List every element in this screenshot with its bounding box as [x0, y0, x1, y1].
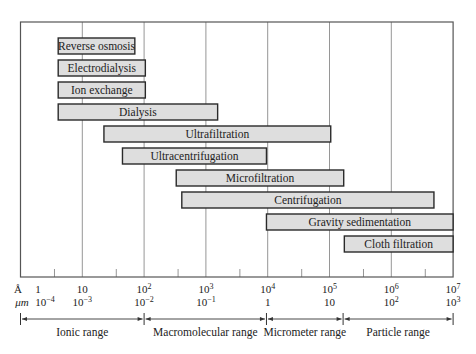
range-macromolecular-range: Macromolecular range: [146, 317, 265, 339]
range-micrometer-range: Micrometer range: [263, 317, 346, 339]
bar-label: Microfiltration: [226, 172, 295, 184]
bar-ultrafiltration: Ultrafiltration: [104, 126, 331, 142]
separation-processes-chart: Reverse osmosisElectrodialysisIon exchan…: [0, 0, 476, 354]
bar-reverse-osmosis: Reverse osmosis: [58, 38, 136, 54]
bar-label: Electrodialysis: [68, 62, 137, 75]
micron-tick-label: 10−3: [73, 295, 93, 308]
angstrom-tick-label: 104: [260, 282, 275, 295]
bar-dialysis: Dialysis: [58, 104, 217, 120]
bar-label: Ultracentrifugation: [150, 150, 238, 163]
bar-electrodialysis: Electrodialysis: [58, 60, 145, 76]
angstrom-unit-label: Å: [14, 283, 22, 295]
arrow-left-icon: [268, 317, 273, 321]
arrow-right-icon: [447, 317, 452, 321]
arrow-left-icon: [22, 317, 27, 321]
bar-label: Gravity sedimentation: [309, 216, 412, 229]
bar-gravity-sedimentation: Gravity sedimentation: [266, 214, 453, 230]
range-particle-range: Particle range: [345, 317, 452, 339]
bar-cloth-filtration: Cloth filtration: [344, 236, 453, 252]
angstrom-tick-label: 105: [322, 282, 337, 295]
size-ranges: Ionic rangeMacromolecular rangeMicromete…: [21, 313, 454, 339]
bar-microfiltration: Microfiltration: [176, 170, 343, 186]
angstrom-tick-label: 1: [35, 283, 41, 295]
micron-tick-label: 10−1: [196, 295, 216, 308]
micron-tick-label: 103: [446, 295, 461, 308]
arrow-left-icon: [146, 317, 151, 321]
bar-label: Reverse osmosis: [58, 40, 136, 52]
bar-label: Centrifugation: [274, 194, 341, 207]
micron-tick-label: 1: [265, 296, 271, 308]
angstrom-tick-label: 106: [384, 282, 399, 295]
arrow-left-icon: [345, 317, 350, 321]
arrow-right-icon: [260, 317, 265, 321]
arrow-right-icon: [337, 317, 342, 321]
micron-unit-label: μm: [14, 296, 29, 308]
angstrom-tick-label: 10: [77, 283, 89, 295]
micron-tick-label: 102: [384, 295, 399, 308]
range-label: Ionic range: [56, 326, 108, 339]
range-label: Particle range: [366, 326, 430, 339]
bar-ultracentrifugation: Ultracentrifugation: [122, 148, 266, 164]
angstrom-tick-label: 107: [446, 282, 461, 295]
micron-tick-label: 10−4: [35, 295, 55, 308]
bar-ion-exchange: Ion exchange: [58, 82, 145, 98]
bar-label: Ion exchange: [71, 84, 133, 97]
angstrom-tick-label: 102: [137, 282, 152, 295]
micron-tick-label: 10: [324, 296, 336, 308]
arrow-right-icon: [138, 317, 143, 321]
bar-label: Cloth filtration: [364, 238, 433, 250]
angstrom-tick-label: 103: [198, 282, 213, 295]
micron-tick-label: 10−2: [134, 295, 154, 308]
range-label: Micrometer range: [263, 326, 346, 339]
bar-label: Dialysis: [119, 106, 157, 119]
process-bars: Reverse osmosisElectrodialysisIon exchan…: [58, 38, 453, 252]
bar-label: Ultrafiltration: [185, 128, 249, 140]
bar-centrifugation: Centrifugation: [182, 192, 434, 208]
size-axis: Åμm110−41010−310210−210310−1104110510106…: [14, 282, 461, 308]
range-ionic-range: Ionic range: [22, 317, 143, 339]
range-label: Macromolecular range: [153, 326, 257, 339]
